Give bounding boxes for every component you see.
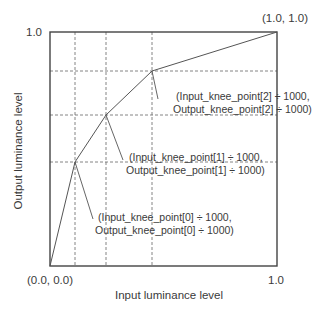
leader-line-knee-2 — [152, 71, 158, 99]
knee-label-2: (Input_knee_point[2] ÷ 1000, Output_knee… — [173, 90, 312, 115]
knee-label-0-line2: Output_knee_point[0] ÷ 1000) — [95, 224, 234, 237]
knee-label-1-line1: (Input_knee_point[1] ÷ 1000, — [126, 151, 265, 164]
knee-label-0-line1: (Input_knee_point[0] ÷ 1000, — [95, 211, 234, 224]
origin-label: (0.0, 0.0) — [27, 274, 73, 286]
knee-label-2-line2: Output_knee_point[2] ÷ 1000) — [173, 103, 312, 116]
knee-label-1: (Input_knee_point[1] ÷ 1000, Output_knee… — [126, 151, 265, 176]
y-axis-title: Output luminance level — [12, 91, 24, 211]
x-axis-title: Input luminance level — [115, 289, 223, 301]
corner-label-top-right: (1.0, 1.0) — [262, 12, 308, 24]
x-tick-right: 1.0 — [268, 274, 284, 286]
leader-line-knee-0 — [75, 162, 93, 219]
knee-label-1-line2: Output_knee_point[1] ÷ 1000) — [126, 164, 265, 177]
knee-label-0: (Input_knee_point[0] ÷ 1000, Output_knee… — [95, 211, 234, 236]
leader-lines — [75, 71, 158, 219]
y-tick-top: 1.0 — [26, 26, 42, 38]
knee-label-2-line1: (Input_knee_point[2] ÷ 1000, — [173, 90, 312, 103]
leader-line-knee-1 — [106, 115, 123, 160]
